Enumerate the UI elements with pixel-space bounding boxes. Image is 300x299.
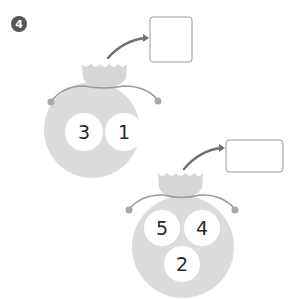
ball: 2 xyxy=(164,246,200,282)
ball-number: 4 xyxy=(196,217,208,239)
problem-number: 4 xyxy=(15,18,23,31)
answer-box-1[interactable] xyxy=(150,17,192,62)
bag-1: 3 1 xyxy=(44,34,162,178)
arrowhead-icon xyxy=(219,144,225,152)
arrowhead-icon xyxy=(143,34,149,42)
bag-2: 5 4 2 xyxy=(126,144,239,298)
arrow-icon xyxy=(108,38,146,58)
string-end-left xyxy=(126,207,133,214)
ball-number: 3 xyxy=(78,121,90,143)
string-end-right xyxy=(232,207,239,214)
ball-number: 1 xyxy=(118,121,130,143)
arrow-icon xyxy=(184,148,222,169)
ball-number: 2 xyxy=(176,253,188,275)
ball: 1 xyxy=(105,113,143,151)
answer-box-2[interactable] xyxy=(226,140,283,172)
problem-number-badge: 4 xyxy=(11,16,27,32)
ball: 5 xyxy=(144,210,180,246)
bag-crown xyxy=(158,173,203,198)
ball: 3 xyxy=(65,113,103,151)
string-end-left xyxy=(48,99,55,106)
string-end-right xyxy=(155,98,162,105)
ball-number: 5 xyxy=(156,217,168,239)
ball: 4 xyxy=(184,210,220,246)
exercise-canvas: 4 3 1 5 xyxy=(0,0,300,299)
